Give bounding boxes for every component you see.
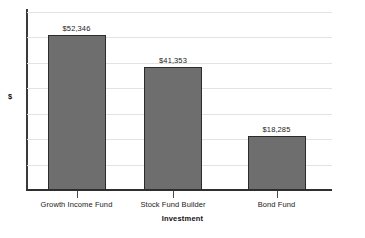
x-axis-tick <box>173 191 174 198</box>
gridline <box>27 12 332 13</box>
x-axis-tick <box>77 191 78 198</box>
bar-value-label: $41,353 <box>133 56 213 65</box>
category-label: Bond Fund <box>222 200 332 209</box>
x-axis-tick <box>277 191 278 198</box>
category-label: Stock Fund Builder <box>118 200 228 209</box>
bar <box>248 136 306 190</box>
chart-screenshot: $ Investment $52,346Growth Income Fund$4… <box>0 0 365 238</box>
x-axis-title: Investment <box>0 214 365 223</box>
bar-value-label: $18,285 <box>237 125 317 134</box>
bar <box>144 67 202 190</box>
category-label: Growth Income Fund <box>22 200 132 209</box>
y-axis-title: $ <box>8 92 12 101</box>
bar-value-label: $52,346 <box>37 24 117 33</box>
bar <box>48 35 106 190</box>
